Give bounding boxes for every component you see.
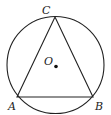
label-o: O [44,55,53,68]
label-c: C [42,4,51,17]
triangle-abc [17,17,93,97]
label-b: B [94,100,103,113]
geometry-diagram: C O A B [0,0,111,115]
label-a: A [7,100,16,113]
center-point-o [54,65,58,69]
